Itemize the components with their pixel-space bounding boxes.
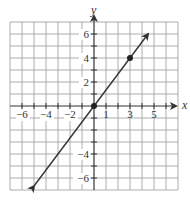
x-tick-label: 1 [103, 108, 109, 120]
coordinate-plane: −6 −4 −2 1 3 5 6 4 2 −4 −6 x y [0, 0, 190, 202]
axes [10, 16, 176, 190]
y-tick-label: −4 [77, 148, 89, 160]
y-axis-label: y [90, 3, 97, 17]
x-tick-label: 3 [127, 108, 133, 120]
y-tick-label: 2 [84, 76, 90, 88]
x-tick-label: −2 [64, 108, 76, 120]
x-tick-label: −4 [40, 108, 52, 120]
x-tick-label: 5 [151, 108, 157, 120]
x-tick-label: −6 [16, 108, 28, 120]
point-origin [91, 103, 97, 109]
y-tick-label: 6 [84, 28, 90, 40]
y-tick-label: 4 [84, 52, 90, 64]
y-tick-label: −6 [77, 172, 89, 184]
x-axis-label: x [181, 98, 188, 112]
point-3-4 [127, 55, 133, 61]
